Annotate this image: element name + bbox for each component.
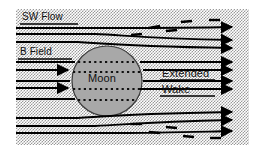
field-tick-icon [166,30,177,31]
streamline-top-1 [16,27,232,28]
streamline-group-top [16,27,232,48]
streamline-bottom-2 [16,120,232,126]
field-tick-icon [131,34,142,35]
lunar-wake-diagram: SW Flow B Field Moon Extended Wake [0,0,267,154]
diagram-vector-layer [0,0,267,154]
label-extended: Extended [162,68,209,79]
field-tick-icon [166,127,177,128]
streamline-top-2 [16,34,232,40]
field-tick-icon [183,136,194,137]
streamline-group-upstream [16,62,75,99]
label-moon: Moon [88,73,116,84]
label-b-field: B Field [20,47,52,57]
label-sw-flow: SW Flow [22,12,63,22]
streamline-bottom-1 [16,112,232,118]
field-tick-icon [149,132,160,133]
label-wake: Wake [162,84,190,95]
field-tick-icon [181,21,192,22]
streamline-group-bottom [16,112,232,133]
streamline-bottom-3 [16,131,232,133]
